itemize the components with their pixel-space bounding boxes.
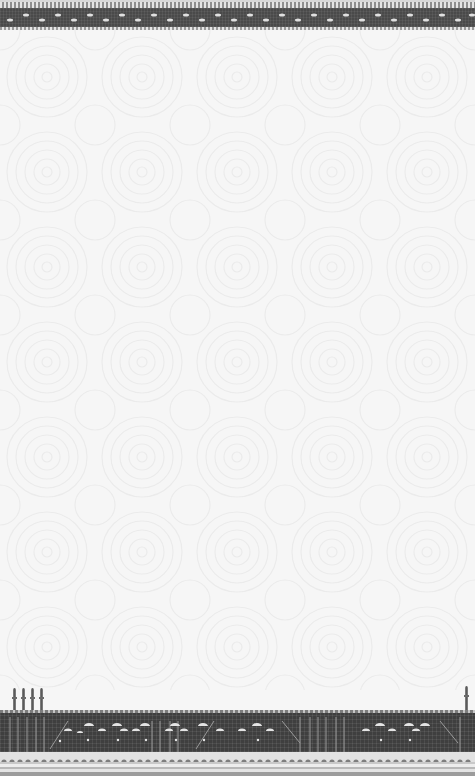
minaret-icon	[22, 688, 25, 712]
minaret-icon	[13, 688, 16, 712]
top-ornamental-border	[0, 0, 475, 30]
decorative-card: Decorative background card with ornament…	[0, 0, 475, 776]
top-bead-row	[0, 0, 475, 8]
bottom-mosaic-band	[0, 713, 475, 752]
bottom-ornamental-border	[0, 686, 475, 776]
minaret-icon	[465, 686, 468, 712]
bottom-stripes	[0, 762, 475, 776]
top-mosaic-band	[0, 8, 475, 27]
minaret-icon	[31, 688, 34, 712]
minaret-icon	[40, 688, 43, 712]
arch-dots-decoration	[0, 8, 475, 27]
swirl-pattern	[0, 30, 475, 690]
top-fringe	[0, 27, 475, 30]
mosque-skyline-decoration	[0, 713, 475, 752]
bottom-bead-row	[0, 752, 475, 762]
